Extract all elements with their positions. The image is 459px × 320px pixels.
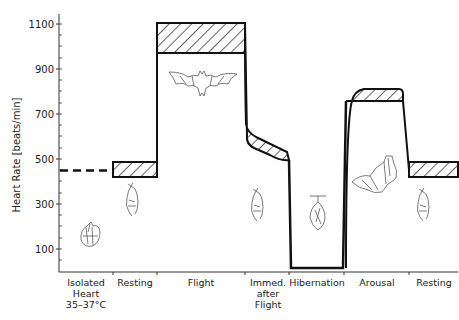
y-tick-label: 100 — [35, 244, 54, 255]
heart-rate-chart: 100 300 500 700 900 1100 Heart Rate [bea… — [0, 0, 459, 320]
y-axis-label: Heart Rate [beats/min] — [11, 97, 22, 212]
y-tick-label: 700 — [35, 109, 54, 120]
x-category-label: Heart — [73, 288, 100, 299]
y-tick-label: 900 — [35, 64, 54, 75]
hibernating-bat-icon — [310, 196, 326, 230]
hibernation-trace — [289, 101, 346, 268]
resting-right-range-band — [409, 162, 458, 177]
resting-bat-icon — [126, 183, 138, 216]
x-category-label: 35–37°C — [66, 299, 107, 310]
y-axis: 100 300 500 700 900 1100 Heart Rate [bea… — [11, 14, 62, 272]
x-category-label: Resting — [416, 277, 451, 288]
after-flight-range-band — [245, 23, 289, 160]
x-category-label: Isolated — [67, 277, 105, 288]
flying-bat-icon — [169, 71, 237, 96]
flight-range-band — [157, 23, 245, 53]
resting-bat-icon — [417, 188, 429, 221]
y-tick-label: 1100 — [29, 19, 54, 30]
x-category-label: Immed. — [250, 277, 286, 288]
isolated-heart-icon — [81, 222, 100, 246]
y-tick-label: 300 — [35, 199, 54, 210]
resting-bat-icon — [251, 188, 263, 221]
x-axis: Isolated Heart 35–37°C Resting Flight Im… — [59, 272, 458, 310]
y-tick-label: 500 — [35, 154, 54, 165]
x-category-label: after — [257, 288, 280, 299]
resting-range-band — [113, 162, 157, 177]
x-category-label: Flight — [255, 299, 282, 310]
arousal-range-band — [352, 89, 403, 101]
arousing-bat-icon — [352, 156, 397, 193]
x-category-label: Resting — [117, 277, 152, 288]
x-category-label: Hibernation — [289, 277, 344, 288]
x-category-label: Flight — [188, 277, 215, 288]
heart-rate-series — [60, 23, 458, 268]
x-category-label: Arousal — [359, 277, 394, 288]
